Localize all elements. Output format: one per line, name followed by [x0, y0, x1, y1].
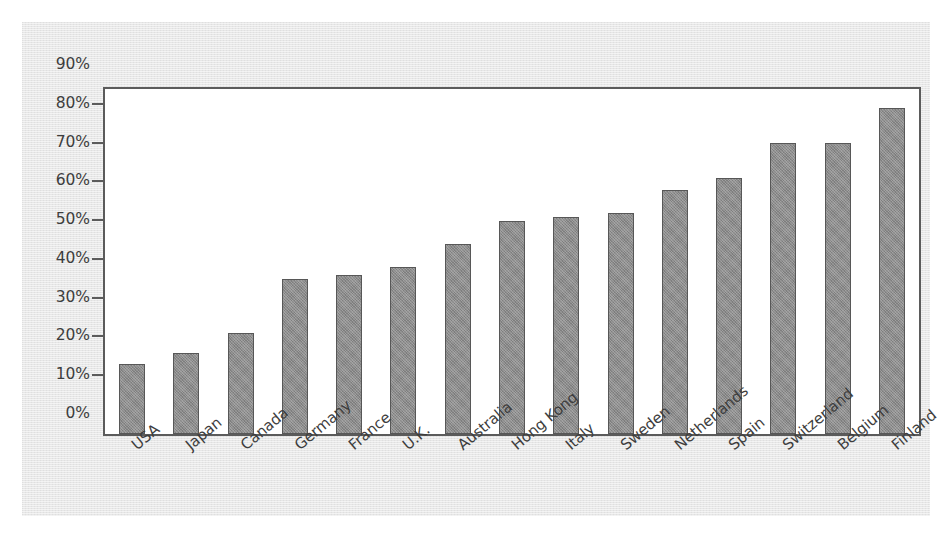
y-axis-tick-label: 40%: [34, 249, 90, 267]
y-axis-tick-label: 30%: [34, 288, 90, 306]
y-axis-tick: [92, 142, 103, 144]
y-axis-tick-label: 90%: [34, 55, 90, 73]
y-axis-tick: [92, 103, 103, 105]
bars-group: [105, 89, 919, 434]
y-axis-tick: [92, 258, 103, 260]
scanned-page-panel: 0%10%20%30%40%50%60%70%80%90% USAJapanCa…: [22, 22, 930, 516]
bar: [662, 190, 688, 434]
y-axis-tick-label: 50%: [34, 210, 90, 228]
bar: [390, 267, 416, 434]
y-axis-tick-label: 10%: [34, 365, 90, 383]
bar: [770, 143, 796, 434]
bar: [445, 244, 471, 434]
bar: [879, 108, 905, 434]
y-axis-tick-label: 0%: [34, 404, 90, 422]
figure-container: 0%10%20%30%40%50%60%70%80%90% USAJapanCa…: [0, 0, 952, 541]
bar: [173, 353, 199, 434]
y-axis-tick-label: 20%: [34, 326, 90, 344]
bar: [608, 213, 634, 434]
y-axis-tick-label: 60%: [34, 171, 90, 189]
y-axis-tick: [92, 374, 103, 376]
bar: [228, 333, 254, 434]
y-axis-tick: [92, 335, 103, 337]
y-axis-tick: [92, 297, 103, 299]
y-axis-tick: [92, 219, 103, 221]
bar: [119, 364, 145, 434]
x-axis-labels: USAJapanCanadaGermanyFranceU.K.Australia…: [105, 440, 919, 540]
y-axis-tick: [92, 180, 103, 182]
y-axis-tick-label: 80%: [34, 94, 90, 112]
y-axis-tick-label: 70%: [34, 133, 90, 151]
